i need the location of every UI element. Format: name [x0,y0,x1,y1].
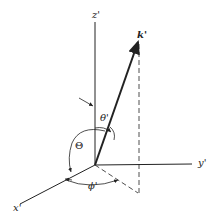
x-axis-label: x' [13,203,21,213]
y-axis [95,164,192,165]
big-theta-label: Θ [75,141,83,151]
projection-xy [95,165,138,193]
theta-prime-label: θ' [100,113,109,123]
coordinate-diagram [0,0,219,221]
k-vector-label: k' [137,30,147,40]
z-axis-label: z' [92,10,100,20]
theta-pointer-icon [79,98,93,106]
y-axis-label: y' [198,158,206,168]
k-vector [95,42,138,165]
phi-prime-label: ϕ' [88,181,98,191]
